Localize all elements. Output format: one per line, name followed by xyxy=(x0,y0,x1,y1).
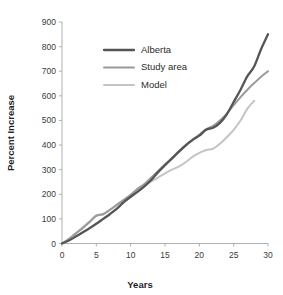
x-tick-label: 30 xyxy=(263,250,273,260)
y-tick-label: 200 xyxy=(42,189,56,199)
y-tick-label: 100 xyxy=(42,214,56,224)
y-tick-label: 0 xyxy=(51,239,56,249)
y-tick-label: 600 xyxy=(42,91,56,101)
x-tick-label: 0 xyxy=(60,250,65,260)
x-tick-label: 20 xyxy=(195,250,205,260)
legend-label-model: Model xyxy=(141,79,167,90)
y-tick-label: 300 xyxy=(42,165,56,175)
x-tick-label: 15 xyxy=(160,250,170,260)
x-axis-title: Years xyxy=(127,279,152,290)
legend-label-study-area: Study area xyxy=(141,61,188,72)
chart-figure: 0100200300400500600700800900 05101520253… xyxy=(0,0,283,295)
y-tick-label: 500 xyxy=(42,115,56,125)
x-tick-label: 25 xyxy=(229,250,239,260)
legend-label-alberta: Alberta xyxy=(141,44,172,55)
y-tick-label: 700 xyxy=(42,66,56,76)
line-chart: 0100200300400500600700800900 05101520253… xyxy=(0,0,283,295)
x-tick-label: 5 xyxy=(94,250,99,260)
y-tick-label: 400 xyxy=(42,140,56,150)
y-tick-label: 800 xyxy=(42,42,56,52)
y-axis-title: Percent Increase xyxy=(5,95,16,171)
x-tick-label: 10 xyxy=(126,250,136,260)
y-tick-label: 900 xyxy=(42,17,56,27)
